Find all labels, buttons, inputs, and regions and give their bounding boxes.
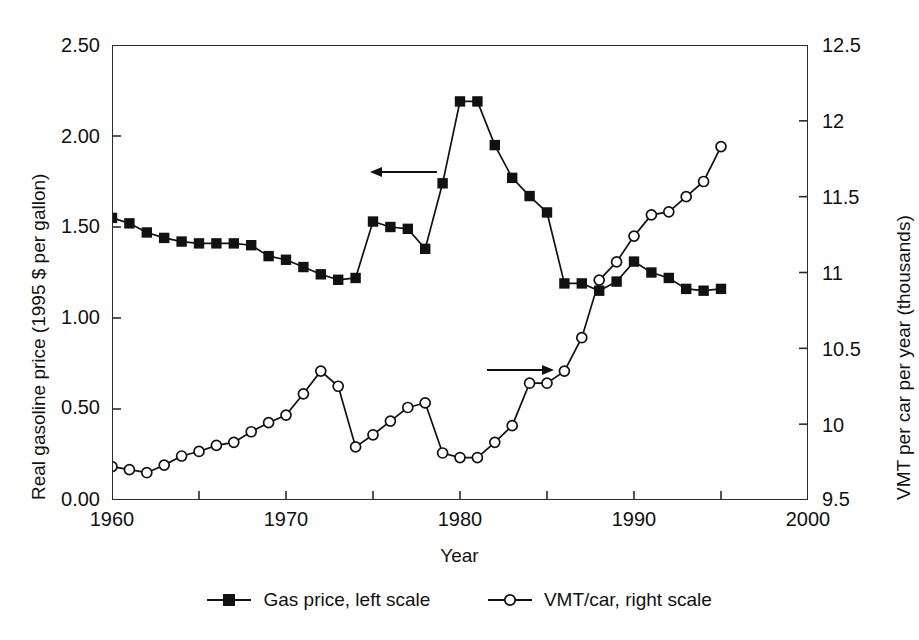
x-tick-label-2000: 2000 [758, 508, 858, 531]
y-right-axis-title: VMT per car per year (thousands) [893, 215, 915, 500]
x-tick-label-1990: 1990 [584, 508, 684, 531]
plot-area [112, 45, 808, 500]
y-right-tick-label-11.5: 11.5 [822, 186, 859, 209]
legend-label-vmt-car: VMT/car, right scale [544, 589, 712, 611]
legend-item-gas-price: Gas price, left scale [207, 588, 430, 611]
x-axis-title: Year [0, 545, 919, 567]
filled-square-marker-icon [207, 593, 251, 607]
y-right-tick-label-12.5: 12.5 [822, 34, 861, 57]
legend-item-vmt-car: VMT/car, right scale [488, 588, 712, 611]
y-left-tick-label-2.00: 2.00 [36, 125, 100, 148]
y-right-tick-label-10.5: 10.5 [822, 338, 861, 361]
legend-label-gas-price: Gas price, left scale [263, 589, 430, 611]
y-left-tick-label-1.00: 1.00 [36, 306, 100, 329]
x-tick-label-1980: 1980 [410, 508, 510, 531]
y-right-tick-label-12: 12 [822, 110, 844, 133]
legend: Gas price, left scale VMT/car, right sca… [0, 588, 919, 611]
x-tick-label-1960: 1960 [62, 508, 162, 531]
plot-frame [112, 45, 808, 500]
chart-figure: Real gasoline price (1995 $ per gallon) … [0, 0, 919, 640]
y-left-tick-label-1.50: 1.50 [36, 215, 100, 238]
x-tick-label-1970: 1970 [236, 508, 336, 531]
y-right-tick-label-11: 11 [822, 262, 843, 285]
y-left-tick-label-2.50: 2.50 [36, 34, 100, 57]
open-circle-marker-icon [488, 593, 532, 607]
y-right-tick-label-10: 10 [822, 414, 844, 437]
y-left-tick-label-0.50: 0.50 [36, 396, 100, 419]
